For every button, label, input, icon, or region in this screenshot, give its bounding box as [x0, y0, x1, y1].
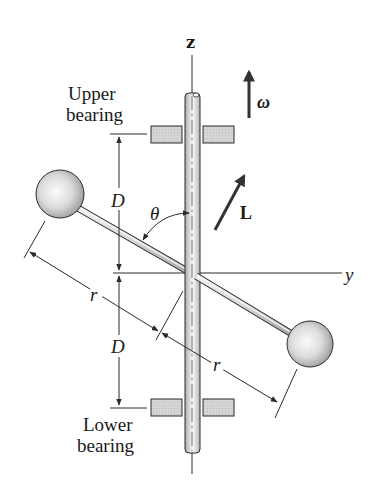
upper-bearing-label-line2: bearing: [66, 104, 123, 125]
dimension-r-right-label: r: [213, 354, 221, 375]
left-sphere: [36, 170, 84, 218]
shaft: [185, 93, 200, 453]
y-axis-label: y: [343, 264, 354, 285]
right-sphere: [287, 321, 333, 367]
dimension-r-left-label: r: [90, 284, 98, 305]
extension-line-right: [275, 369, 297, 418]
z-axis-label: z: [186, 33, 195, 52]
lower-bearing-label-line1: Lower: [83, 414, 133, 435]
dimension-d-upper-label: D: [110, 190, 125, 211]
dimension-d-lower-label: D: [110, 336, 125, 357]
upper-bearing-label-line1: Upper: [68, 83, 116, 104]
rotating-dumbbell-diagram: z y Upper bearing Lower bearing D: [0, 0, 369, 487]
angular-momentum-label: L: [240, 203, 252, 223]
extension-line-left: [24, 221, 45, 258]
rod-right: [196, 275, 292, 334]
theta-label: θ: [150, 203, 159, 224]
omega-label: ω: [257, 92, 270, 112]
extension-line-center: [156, 291, 183, 340]
lower-bearing-label-line2: bearing: [77, 435, 134, 456]
